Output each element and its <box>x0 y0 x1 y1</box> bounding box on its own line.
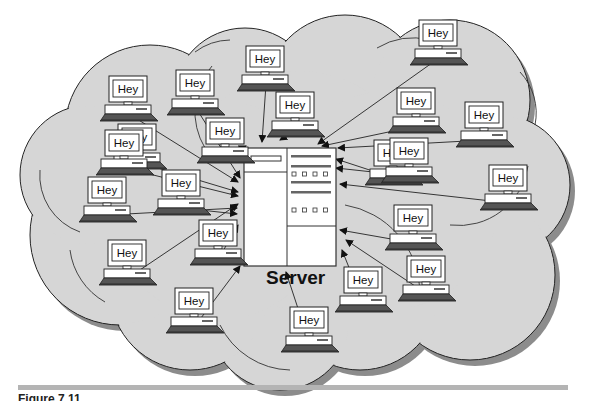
keyboard-edge <box>79 221 137 223</box>
keyboard-edge <box>190 264 248 266</box>
keyboard <box>168 108 224 114</box>
drive-slot <box>132 162 143 164</box>
keyboard <box>399 294 455 300</box>
server-led <box>313 172 317 176</box>
keyboard <box>268 130 324 136</box>
drive-slot <box>203 102 214 104</box>
keyboard <box>167 326 223 332</box>
hey-message: Hey <box>97 184 118 196</box>
hey-message: Hey <box>255 53 276 65</box>
server-led <box>313 208 317 212</box>
drive-slot <box>434 288 445 290</box>
keyboard <box>154 208 210 214</box>
keyboard-edge <box>167 114 225 116</box>
monitor-stand <box>190 314 198 317</box>
keyboard <box>101 114 157 120</box>
server-led <box>324 172 328 176</box>
drive-slot <box>317 339 328 341</box>
drive-slot <box>189 202 200 204</box>
keyboard-edge <box>166 332 224 334</box>
monitor-stand <box>359 293 367 296</box>
keyboard-edge <box>398 300 456 302</box>
hey-message: Hey <box>215 125 236 137</box>
keyboard-edge <box>99 284 157 286</box>
server <box>244 148 336 266</box>
keyboard-edge <box>237 90 295 92</box>
drive-slot <box>226 252 237 254</box>
keyboard <box>191 258 247 264</box>
hey-message: Hey <box>353 274 374 286</box>
monitor-stand <box>434 46 442 49</box>
server-led <box>324 208 328 212</box>
keyboard <box>282 345 338 351</box>
monitor-stand <box>305 333 313 336</box>
drive-slot <box>424 120 435 122</box>
hey-message: Hey <box>285 99 306 111</box>
keyboard-edge <box>381 182 439 184</box>
keyboard-edge <box>388 132 446 134</box>
keyboard <box>97 168 153 174</box>
drive-slot <box>273 78 284 80</box>
drive-slot <box>233 150 244 152</box>
figure-caption: Figure 7.11 <box>18 393 81 401</box>
monitor-stand <box>422 282 430 285</box>
hey-message: Hey <box>498 172 519 184</box>
keyboard <box>481 203 537 209</box>
figure-rule <box>18 385 568 390</box>
keyboard-edge <box>480 209 538 211</box>
hey-message: Hey <box>184 295 205 307</box>
server-bay <box>291 181 331 184</box>
keyboard <box>382 176 438 182</box>
hey-message: Hey <box>171 177 192 189</box>
keyboard-edge <box>153 214 211 216</box>
hey-message: Hey <box>403 212 424 224</box>
keyboard-edge <box>335 311 393 313</box>
keyboard-edge <box>267 136 325 138</box>
drive-slot <box>417 170 428 172</box>
drive-slot <box>135 272 146 274</box>
server-led <box>292 172 296 176</box>
hey-message: Hey <box>117 247 138 259</box>
hey-message: Hey <box>474 109 495 121</box>
keyboard <box>389 126 445 132</box>
hey-message: Hey <box>416 263 437 275</box>
drive-slot <box>202 320 213 322</box>
keyboard <box>386 243 442 249</box>
keyboard <box>457 140 513 146</box>
keyboard-edge <box>100 120 158 122</box>
hey-message: Hey <box>118 83 139 95</box>
keyboard <box>80 215 136 221</box>
keyboard <box>100 278 156 284</box>
drive-slot <box>492 134 503 136</box>
hey-message: Hey <box>428 27 449 39</box>
keyboard <box>411 58 467 64</box>
hey-message: Hey <box>208 227 229 239</box>
hey-message: Hey <box>299 314 320 326</box>
server-bay <box>291 165 331 168</box>
keyboard-edge <box>410 64 468 66</box>
keyboard-edge <box>365 184 423 186</box>
keyboard <box>238 84 294 90</box>
drive-slot <box>303 124 314 126</box>
keyboard-edge <box>385 249 443 251</box>
hey-message: Hey <box>114 137 135 149</box>
drive-slot <box>136 108 147 110</box>
hey-message: Hey <box>399 145 420 157</box>
drive-slot <box>115 209 126 211</box>
server-led <box>303 172 307 176</box>
hey-message: Hey <box>406 95 427 107</box>
drive-slot <box>446 52 457 54</box>
server-led <box>303 208 307 212</box>
keyboard-edge <box>96 174 154 176</box>
drive-slot <box>516 197 527 199</box>
keyboard-edge <box>197 162 255 164</box>
keyboard-edge <box>281 351 339 353</box>
server-bay <box>291 155 331 158</box>
monitor-stand <box>123 266 131 269</box>
drive-slot <box>145 156 156 158</box>
server-label: Server <box>266 267 325 289</box>
drive-slot <box>421 237 432 239</box>
keyboard <box>198 156 254 162</box>
